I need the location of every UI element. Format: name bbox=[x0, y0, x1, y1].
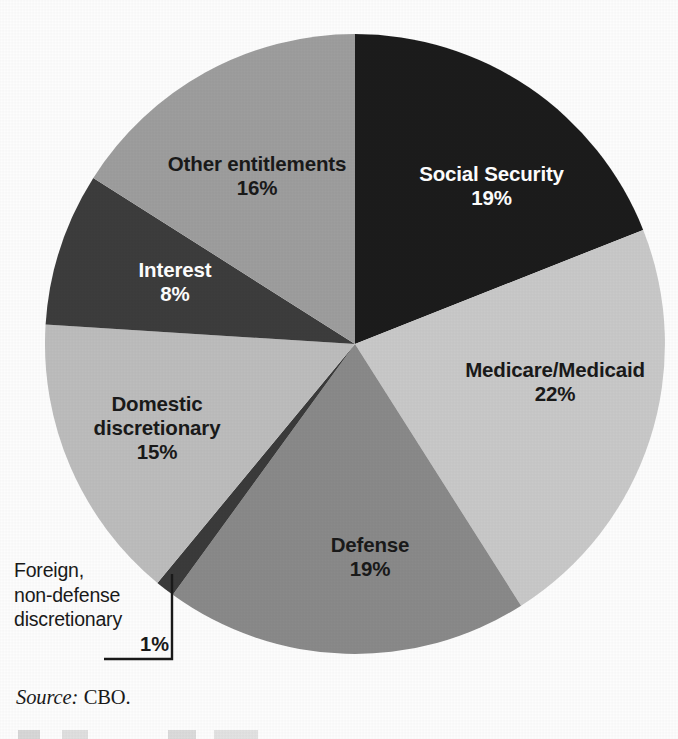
slice-label-social-security: Social Security 19% bbox=[384, 162, 599, 210]
slice-label-interest: Interest 8% bbox=[100, 258, 250, 306]
slice-label-medicare-medicaid-name: Medicare/Medicaid bbox=[432, 358, 678, 382]
pie-chart-figure: Social Security 19% Medicare/Medicaid 22… bbox=[0, 0, 678, 739]
source-note: Source: CBO. bbox=[16, 686, 131, 709]
slice-label-other-entitlements: Other entitlements 16% bbox=[126, 152, 388, 200]
source-note-prefix: Source: bbox=[16, 686, 78, 708]
slice-label-foreign-line1: Foreign, bbox=[14, 558, 174, 583]
slice-label-interest-name: Interest bbox=[100, 258, 250, 282]
slice-label-foreign-line2: non-defense bbox=[14, 583, 174, 608]
slice-label-foreign-line3: discretionary bbox=[14, 607, 174, 632]
slice-label-domestic-discretionary-percent: 15% bbox=[52, 440, 262, 464]
slice-label-medicare-medicaid: Medicare/Medicaid 22% bbox=[432, 358, 678, 406]
source-note-value: CBO. bbox=[84, 686, 131, 708]
slice-label-foreign-non-defense-discretionary: Foreign, non-defense discretionary 1% bbox=[14, 558, 174, 657]
slice-label-foreign-percent: 1% bbox=[14, 632, 174, 657]
slice-label-other-entitlements-name: Other entitlements bbox=[126, 152, 388, 176]
slice-label-domestic-discretionary-name-line2: discretionary bbox=[52, 416, 262, 440]
slice-label-social-security-name: Social Security bbox=[384, 162, 599, 186]
slice-label-defense-name: Defense bbox=[290, 533, 450, 557]
page-bottom-artifact bbox=[18, 730, 258, 739]
slice-label-interest-percent: 8% bbox=[100, 282, 250, 306]
slice-label-social-security-percent: 19% bbox=[384, 186, 599, 210]
slice-label-domestic-discretionary-name-line1: Domestic bbox=[52, 392, 262, 416]
slice-label-defense-percent: 19% bbox=[290, 557, 450, 581]
slice-label-defense: Defense 19% bbox=[290, 533, 450, 581]
slice-label-medicare-medicaid-percent: 22% bbox=[432, 382, 678, 406]
slice-label-domestic-discretionary: Domestic discretionary 15% bbox=[52, 392, 262, 463]
slice-label-other-entitlements-percent: 16% bbox=[126, 176, 388, 200]
